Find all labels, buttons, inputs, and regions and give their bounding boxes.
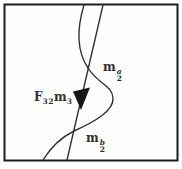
point-a-label-scripts: a2 <box>117 68 122 82</box>
point-b-label-sub: 2 <box>100 146 105 153</box>
direction-arrowhead-icon <box>73 88 90 111</box>
point-b-label: mb2 <box>86 132 105 153</box>
epipolar-line-label-m-sub: 3 <box>67 97 73 106</box>
point-a-label: ma2 <box>103 61 122 82</box>
point-a-label-base: m <box>103 60 116 74</box>
point-b-label-base: m <box>86 131 99 145</box>
epipolar-line-label: F32m3 <box>34 91 72 106</box>
point-a-label-sub: 2 <box>117 75 122 82</box>
epipolar-line-label-F-sub: 32 <box>43 97 54 106</box>
epipolar-line-label-F: F <box>34 90 43 104</box>
epipolar-line-label-m: m <box>54 90 67 104</box>
point-b-label-scripts: b2 <box>100 139 105 153</box>
epipolar-geometry-figure: F32m3 ma2 mb2 <box>0 0 182 169</box>
